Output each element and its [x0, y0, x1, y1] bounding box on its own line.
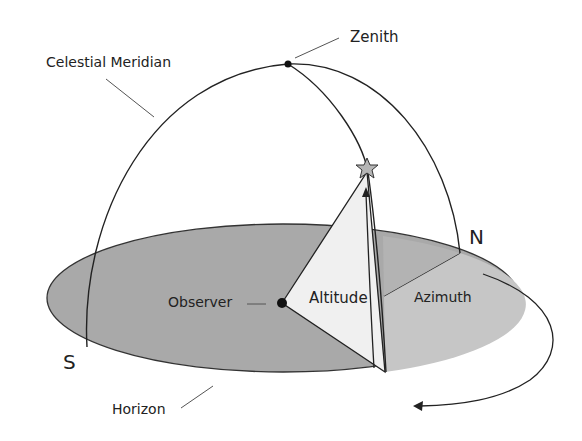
curved-arrow-icon — [413, 401, 423, 411]
observer-point — [277, 298, 287, 308]
zenith-leader-line — [295, 38, 339, 58]
azimuth-label: Azimuth — [414, 289, 472, 305]
north-label: N — [469, 225, 484, 249]
zenith-label: Zenith — [350, 28, 399, 46]
south-label: S — [63, 350, 76, 374]
observer-label: Observer — [168, 294, 232, 310]
horizon-leader-line — [181, 386, 213, 408]
zenith-point — [285, 61, 292, 68]
alt-az-diagram: Celestial Meridian Zenith Observer Altit… — [0, 0, 582, 441]
celestial-meridian-label: Celestial Meridian — [46, 54, 171, 70]
meridian-leader-line — [106, 79, 154, 117]
altitude-label: Altitude — [309, 289, 368, 307]
horizon-label: Horizon — [112, 401, 166, 417]
